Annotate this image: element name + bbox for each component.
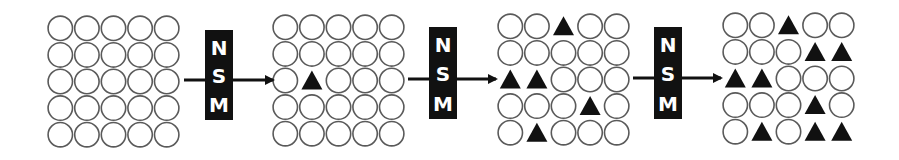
circle-cell	[101, 69, 125, 93]
circle-cell	[326, 15, 350, 39]
circle-cell	[578, 121, 602, 145]
circle-cell	[353, 15, 377, 39]
grid-step-2	[498, 14, 629, 145]
triangle-cell	[751, 69, 772, 88]
circle-cell	[380, 68, 404, 92]
circle-cell	[605, 67, 629, 91]
triangle-cell	[500, 70, 521, 89]
circle-cell	[723, 40, 747, 64]
circle-cell	[353, 95, 377, 119]
circle-cell	[380, 42, 404, 66]
circle-cell	[300, 122, 324, 146]
circle-cell	[155, 43, 179, 67]
circle-cell	[605, 121, 629, 145]
triangle-cell	[553, 16, 574, 35]
circle-cell	[353, 68, 377, 92]
circle-cell	[605, 94, 629, 118]
circle-cell	[75, 16, 99, 40]
triangle-cell	[751, 122, 772, 141]
nsm-letter-m: M	[658, 92, 678, 116]
triangle-cell	[301, 71, 322, 90]
circle-cell	[75, 69, 99, 93]
circle-cell	[776, 66, 800, 90]
nsm-letter-m: M	[209, 93, 229, 117]
triangle-cell	[778, 15, 799, 34]
circle-cell	[776, 93, 800, 117]
triangle-cell	[725, 69, 746, 88]
triangle-cell	[805, 95, 826, 114]
circle-cell	[723, 13, 747, 37]
circle-cell	[326, 95, 350, 119]
circle-cell	[551, 121, 575, 145]
circle-cell	[101, 96, 125, 120]
circle-cell	[128, 16, 152, 40]
nsm-letter-s: S	[212, 64, 226, 88]
triangle-cell	[805, 42, 826, 61]
circle-cell	[101, 123, 125, 147]
circle-cell	[380, 15, 404, 39]
circle-cell	[155, 123, 179, 147]
grid-step-0	[48, 16, 179, 147]
nsm-operator-2: N S M	[408, 27, 496, 119]
circle-cell	[48, 16, 72, 40]
nsm-letter-m: M	[433, 92, 453, 116]
circle-cell	[803, 66, 827, 90]
circle-cell	[75, 96, 99, 120]
circle-cell	[830, 66, 854, 90]
circle-cell	[776, 40, 800, 64]
circle-cell	[380, 122, 404, 146]
circle-cell	[353, 122, 377, 146]
triangle-cell	[526, 123, 547, 142]
circle-cell	[723, 93, 747, 117]
circle-cell	[326, 122, 350, 146]
triangle-cell	[526, 70, 547, 89]
circle-cell	[551, 94, 575, 118]
circle-cell	[551, 67, 575, 91]
circle-cell	[498, 121, 522, 145]
circle-cell	[273, 15, 297, 39]
circle-cell	[498, 94, 522, 118]
triangle-cell	[831, 42, 852, 61]
circle-cell	[75, 123, 99, 147]
circle-cell	[300, 15, 324, 39]
triangle-cell	[580, 96, 601, 115]
grid-step-3	[723, 13, 854, 144]
circle-cell	[578, 67, 602, 91]
circle-cell	[300, 42, 324, 66]
circle-cell	[525, 14, 549, 38]
circle-cell	[128, 96, 152, 120]
circle-cell	[101, 43, 125, 67]
nsm-process-diagram: N S M N S M N S M	[0, 0, 899, 160]
circle-cell	[830, 13, 854, 37]
circle-cell	[273, 68, 297, 92]
circle-cell	[128, 69, 152, 93]
nsm-letter-n: N	[435, 33, 452, 57]
circle-cell	[326, 42, 350, 66]
circle-cell	[48, 96, 72, 120]
circle-cell	[380, 95, 404, 119]
circle-cell	[353, 42, 377, 66]
circle-cell	[155, 16, 179, 40]
circle-cell	[776, 120, 800, 144]
circle-cell	[48, 123, 72, 147]
nsm-letter-s: S	[436, 62, 450, 86]
circle-cell	[48, 43, 72, 67]
nsm-operator-1: N S M	[184, 30, 273, 120]
nsm-operator-3: N S M	[633, 27, 721, 119]
circle-cell	[750, 13, 774, 37]
circle-cell	[750, 40, 774, 64]
circle-cell	[273, 42, 297, 66]
circle-cell	[525, 41, 549, 65]
circle-cell	[723, 120, 747, 144]
circle-cell	[300, 95, 324, 119]
nsm-letter-n: N	[660, 33, 677, 57]
circle-cell	[578, 14, 602, 38]
circle-cell	[605, 14, 629, 38]
nsm-letter-s: S	[661, 62, 675, 86]
circle-cell	[155, 69, 179, 93]
circle-cell	[48, 69, 72, 93]
grid-step-1	[273, 15, 404, 146]
circle-cell	[750, 93, 774, 117]
circle-cell	[326, 68, 350, 92]
circle-cell	[128, 43, 152, 67]
